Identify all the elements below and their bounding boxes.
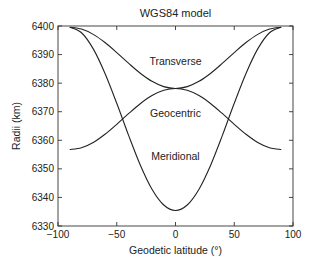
y-tick-label: 6370 — [32, 106, 55, 117]
wgs84-radii-chart: WGS84 model −100−50050100633063406350636… — [0, 0, 315, 264]
x-tick-label: 0 — [173, 229, 179, 240]
y-tick-label: 6400 — [32, 21, 55, 32]
meridional-label: Meridional — [151, 150, 199, 162]
x-axis-label: Geodetic latitude (°) — [129, 244, 222, 256]
x-tick-label: 100 — [285, 229, 302, 240]
y-axis-label: Radii (km) — [10, 102, 22, 150]
y-tick-label: 6380 — [32, 78, 55, 89]
y-tick-label: 6330 — [32, 221, 55, 232]
chart-title: WGS84 model — [140, 7, 212, 19]
y-tick-label: 6390 — [32, 49, 55, 60]
transverse-label: Transverse — [149, 55, 201, 67]
curve-annotations: TransverseGeocentricMeridional — [149, 55, 201, 163]
x-tick-label: −50 — [108, 229, 125, 240]
x-tick-label: 50 — [229, 229, 241, 240]
y-tick-label: 6340 — [32, 192, 55, 203]
geocentric-label: Geocentric — [150, 107, 201, 119]
y-tick-label: 6350 — [32, 163, 55, 174]
y-tick-label: 6360 — [32, 135, 55, 146]
